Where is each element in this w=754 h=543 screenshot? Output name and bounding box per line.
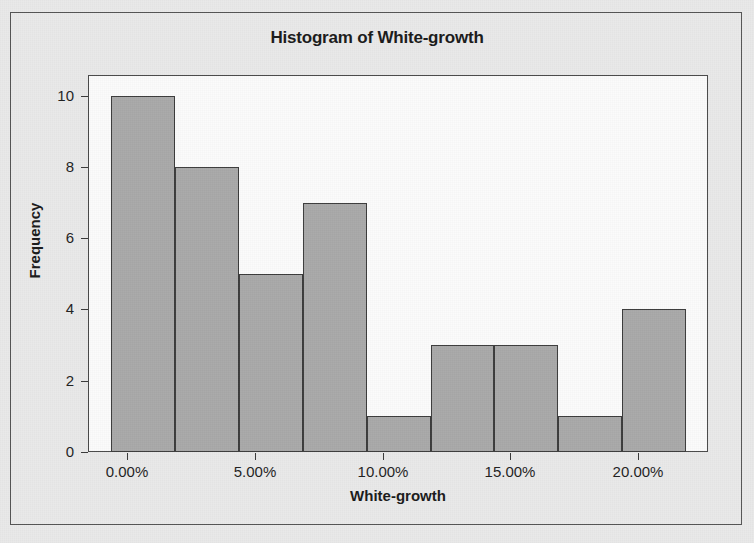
- x-axis-tick-mark: [127, 453, 128, 460]
- x-axis-tick-mark: [383, 453, 384, 460]
- histogram-screenshot: Histogram of White-growth 0246810 0.00%5…: [0, 0, 754, 543]
- x-axis-tick-label: 10.00%: [338, 463, 428, 480]
- y-axis-tick-label: 10: [40, 87, 74, 104]
- y-axis-tick-label: 4: [40, 300, 74, 317]
- y-axis-tick-mark: [81, 309, 88, 310]
- x-axis-tick-mark: [510, 453, 511, 460]
- histogram-bar: [367, 416, 431, 452]
- y-axis-label: Frequency: [26, 161, 43, 321]
- x-axis-tick-label: 15.00%: [465, 463, 555, 480]
- x-axis-tick-mark: [638, 453, 639, 460]
- histogram-bar: [111, 96, 175, 452]
- y-axis-tick-mark: [81, 238, 88, 239]
- x-axis-tick-label: 20.00%: [593, 463, 683, 480]
- histogram-bar: [494, 345, 558, 452]
- x-axis-tick-mark: [255, 453, 256, 460]
- y-axis-tick-label: 0: [40, 443, 74, 460]
- y-axis-tick-label: 8: [40, 158, 74, 175]
- histogram-bar: [622, 309, 686, 452]
- x-axis-tick-label: 5.00%: [210, 463, 300, 480]
- y-axis-tick-mark: [81, 96, 88, 97]
- histogram-bar: [175, 167, 239, 452]
- histogram-bar: [431, 345, 495, 452]
- x-axis-tick-label: 0.00%: [82, 463, 172, 480]
- y-axis-tick-label: 6: [40, 229, 74, 246]
- chart-title: Histogram of White-growth: [0, 28, 754, 48]
- histogram-bar: [303, 203, 367, 452]
- histogram-bar: [239, 274, 303, 452]
- y-axis-tick-label: 2: [40, 372, 74, 389]
- x-axis-label: White-growth: [88, 487, 708, 504]
- y-axis-tick-mark: [81, 167, 88, 168]
- plot-area: [89, 76, 707, 452]
- y-axis-tick-mark: [81, 452, 88, 453]
- y-axis-tick-mark: [81, 381, 88, 382]
- histogram-bar: [558, 416, 622, 452]
